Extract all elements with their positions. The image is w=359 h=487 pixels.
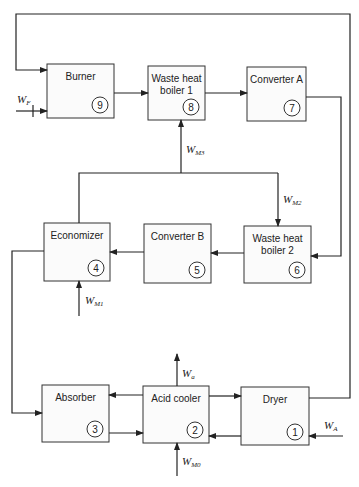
unit-absorber: Absorber3 xyxy=(42,385,109,442)
unit-label: boiler 2 xyxy=(261,245,294,256)
unit-waste-heat-boiler-1: Waste heatboiler 18 xyxy=(148,66,205,120)
unit-label: Absorber xyxy=(55,392,96,403)
unit-label: Economizer xyxy=(51,230,104,241)
label-wm0: WM0 xyxy=(182,455,201,469)
label-wa-in: WA xyxy=(324,419,338,433)
unit-dryer: Dryer1 xyxy=(241,387,309,445)
unit-label: Converter A xyxy=(250,74,303,85)
unit-label: Acid cooler xyxy=(151,393,201,404)
unit-burner: Burner9 xyxy=(47,64,114,118)
unit-number: 6 xyxy=(294,265,300,276)
unit-label: Waste heat xyxy=(252,233,302,244)
label-wm3: WM3 xyxy=(186,143,205,157)
unit-acid-cooler: Acid cooler2 xyxy=(143,386,209,443)
unit-label: boiler 1 xyxy=(160,85,193,96)
label-wf: WF xyxy=(17,93,31,107)
label-wa-out: Wa xyxy=(182,367,195,381)
unit-number: 4 xyxy=(93,263,99,274)
unit-label: Dryer xyxy=(263,394,288,405)
unit-converter-b: Converter B5 xyxy=(144,224,211,283)
unit-label: Waste heat xyxy=(151,73,201,84)
unit-number: 1 xyxy=(292,427,298,438)
air-header-line xyxy=(79,173,278,223)
unit-number: 9 xyxy=(97,100,103,111)
unit-waste-heat-boiler-2: Waste heatboiler 26 xyxy=(244,226,311,283)
unit-label: Burner xyxy=(65,71,96,82)
economizer-to-absorber-line xyxy=(12,251,44,413)
label-wm1: WM1 xyxy=(85,294,104,308)
unit-number: 7 xyxy=(289,103,295,114)
unit-converter-a: Converter A7 xyxy=(247,67,306,121)
unit-number: 8 xyxy=(188,102,194,113)
process-flow-diagram: Burner9Waste heatboiler 18Converter A7Ec… xyxy=(0,0,359,487)
unit-number: 2 xyxy=(192,425,198,436)
unit-number: 5 xyxy=(194,265,200,276)
label-wm2: WM2 xyxy=(283,193,302,207)
unit-label: Converter B xyxy=(151,231,205,242)
unit-number: 3 xyxy=(92,424,98,435)
unit-economizer: Economizer4 xyxy=(44,223,110,281)
